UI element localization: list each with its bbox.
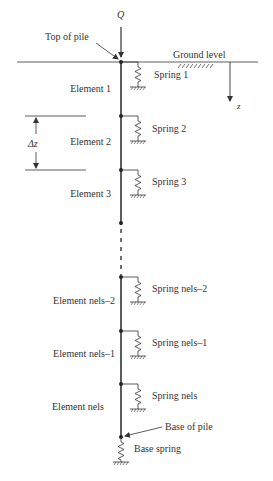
ground-level-label: Ground level	[173, 49, 226, 60]
ground-hatch	[178, 64, 213, 68]
spring-nels	[121, 384, 146, 412]
spring-nels-2	[121, 277, 146, 305]
spring-nels-1	[121, 331, 146, 359]
top-of-pile-pointer	[96, 43, 118, 59]
base-of-pile-label: Base of pile	[165, 421, 213, 432]
depth-axis-label: z	[236, 101, 241, 111]
load-label: Q	[117, 9, 125, 20]
base-spring-label: Base spring	[134, 443, 181, 454]
element-3-label: Element 3	[70, 188, 111, 199]
spring-nels-label: Spring nels	[152, 390, 197, 401]
element-1-label: Element 1	[70, 83, 111, 94]
element-nels-label: Element nels	[52, 401, 104, 412]
spring-1-label: Spring 1	[154, 69, 188, 80]
element-length-label: Δz	[27, 138, 38, 149]
spring-1	[121, 62, 146, 90]
element-nels-2-label: Element nels–2	[53, 295, 115, 306]
pile-spring-model-diagram: Q Top of pile Ground level z Δz	[0, 0, 273, 481]
spring-2-label: Spring 2	[152, 123, 186, 134]
spring-3	[121, 170, 146, 198]
spring-nels-1-label: Spring nels–1	[152, 337, 207, 348]
spring-nels-2-label: Spring nels–2	[152, 283, 207, 294]
element-nels-1-label: Element nels–1	[53, 348, 115, 359]
spring-3-label: Spring 3	[152, 176, 186, 187]
base-of-pile-pointer	[125, 427, 162, 436]
base-spring	[113, 437, 129, 465]
spring-2	[121, 116, 146, 144]
element-2-label: Element 2	[70, 136, 111, 147]
top-of-pile-label: Top of pile	[45, 31, 89, 42]
